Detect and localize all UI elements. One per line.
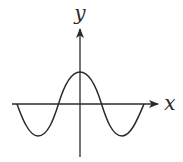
x-axis-label: x [164,91,175,115]
y-axis-label: y [73,1,86,25]
cosine-graph: y x [0,0,183,162]
